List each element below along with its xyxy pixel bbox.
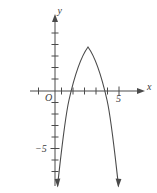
figure-container: y x O 5 −5 [0,0,157,193]
origin-label: O [45,92,52,103]
x-tick-label-5: 5 [116,93,121,104]
y-axis-label: y [57,5,63,16]
x-axis-label: x [146,81,152,92]
y-tick-label-minus5: −5 [35,143,47,154]
parabola-graph: y x O 5 −5 [0,0,157,193]
parabola-curve [55,47,122,188]
curve-right-arrow-icon [116,179,122,188]
x-axis-arrow-icon [137,88,145,94]
